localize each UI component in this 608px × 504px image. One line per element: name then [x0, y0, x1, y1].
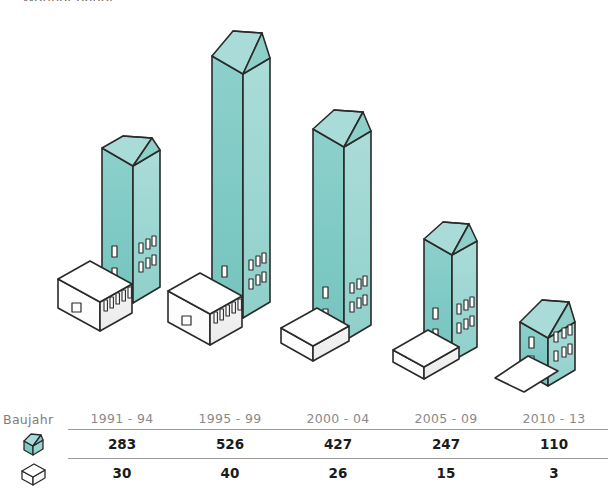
value-wohn-2010-13: 110: [500, 430, 608, 459]
value-nicht-2000-04: 26: [284, 459, 392, 488]
value-wohn-2000-04: 427: [284, 430, 392, 459]
col-header-1995-99: 1995 - 99: [176, 404, 284, 430]
row-label-baujahr: Baujahr: [0, 404, 68, 430]
group-2000-04: [281, 110, 371, 361]
legend-box-cell: [0, 459, 68, 488]
value-nicht-1991-94: 30: [68, 459, 176, 488]
data-table-zone: Baujahr 1991 - 94 1995 - 99 2000 - 04 20…: [0, 404, 608, 504]
value-wohn-1991-94: 283: [68, 430, 176, 459]
data-table: Baujahr 1991 - 94 1995 - 99 2000 - 04 20…: [0, 404, 608, 487]
group-2005-09: [393, 222, 477, 379]
group-1995-99: [168, 31, 270, 345]
isometric-building-scene: [0, 0, 608, 404]
value-nicht-2005-09: 15: [392, 459, 500, 488]
col-header-1991-94: 1991 - 94: [68, 404, 176, 430]
buildings-svg: [0, 0, 608, 404]
col-header-2000-04: 2000 - 04: [284, 404, 392, 430]
table-header-row: Baujahr 1991 - 94 1995 - 99 2000 - 04 20…: [0, 404, 608, 430]
legend-house-cell: [0, 430, 68, 459]
value-nicht-2010-13: 3: [500, 459, 608, 488]
value-wohn-1995-99: 526: [176, 430, 284, 459]
table-row-nichtwohngebaeude: 30 40 26 15 3: [0, 459, 608, 488]
white-box-icon: [18, 460, 50, 486]
value-nicht-1995-99: 40: [176, 459, 284, 488]
teal-tower-1995-99: [212, 31, 270, 318]
group-2010-13: [495, 300, 575, 392]
teal-tower-2000-04: [313, 110, 371, 341]
teal-house-icon: [19, 431, 49, 457]
infographic-root: Wohngebäude: [0, 0, 608, 504]
value-wohn-2005-09: 247: [392, 430, 500, 459]
group-1991-94: [58, 136, 160, 331]
col-header-2010-13: 2010 - 13: [500, 404, 608, 430]
col-header-2005-09: 2005 - 09: [392, 404, 500, 430]
table-row-wohngebaeude: 283 526 427 247 110: [0, 430, 608, 459]
